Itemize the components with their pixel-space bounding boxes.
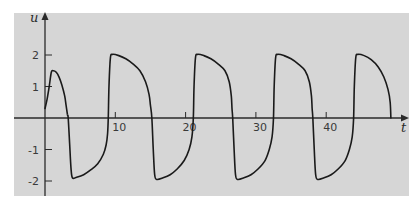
x-tick-label: 30 (253, 121, 267, 134)
x-ticks: 10203040 (112, 112, 337, 134)
x-tick-label: 20 (183, 121, 197, 134)
series-group (45, 54, 391, 179)
x-axis-label: t (401, 120, 407, 135)
y-tick-label: -1 (28, 144, 39, 157)
series-line-u (45, 54, 391, 179)
y-tick-label: 2 (32, 49, 39, 62)
x-tick-label: 10 (112, 121, 126, 134)
y-tick-label: -2 (28, 175, 39, 188)
y-axis-arrow-icon (42, 12, 49, 20)
y-axis-label: u (30, 10, 38, 25)
chart: t u 10203040 21-1-2 (0, 0, 419, 203)
y-tick-label: 1 (32, 81, 39, 94)
x-tick-label: 40 (323, 121, 337, 134)
axes: t u (14, 10, 409, 196)
